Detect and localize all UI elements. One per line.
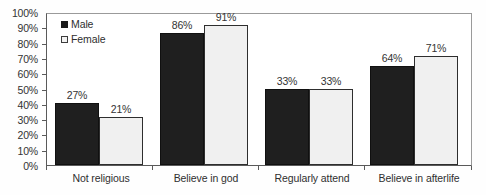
bar-male[interactable]: [160, 33, 204, 165]
y-tick-label: 100%: [12, 8, 38, 19]
bar-male[interactable]: [55, 103, 99, 165]
x-axis: Not religious Believe in god Regularly a…: [0, 172, 486, 192]
bar-male[interactable]: [265, 89, 309, 165]
y-tick-label: 70%: [18, 54, 38, 65]
bar-group: 33% 33%: [265, 14, 360, 165]
y-tick-label: 0%: [23, 161, 38, 172]
legend: Male Female: [61, 18, 105, 48]
legend-item-female: Female: [61, 33, 105, 46]
legend-label-female: Female: [71, 34, 105, 45]
bar-value-label: 71%: [426, 43, 446, 54]
bar-value-label: 33%: [321, 76, 341, 87]
y-tick-label: 20%: [18, 130, 38, 141]
bar-value-label: 86%: [172, 20, 192, 31]
bar-value-label: 27%: [67, 90, 87, 101]
x-axis-tick: [46, 166, 47, 170]
bar-chart: 100% 90% 80% 70% 60% 50% 40% 30% 20% 10%…: [0, 0, 486, 195]
y-tick-label: 60%: [18, 69, 38, 80]
x-category-label: Not religious: [72, 172, 129, 184]
x-axis-tick: [152, 166, 153, 170]
bar-value-label: 21%: [111, 104, 131, 115]
legend-label-male: Male: [71, 19, 93, 30]
bar-group: 86% 91%: [160, 14, 255, 165]
x-category-label: Regularly attend: [275, 172, 350, 184]
bar-female[interactable]: [309, 89, 353, 165]
legend-item-male: Male: [61, 18, 105, 31]
legend-swatch-female-icon: [61, 36, 68, 43]
bar-value-label: 91%: [216, 12, 236, 23]
x-axis-tick: [364, 166, 365, 170]
y-tick-label: 30%: [18, 115, 38, 126]
bar-value-label: 33%: [277, 76, 297, 87]
x-axis-tick: [471, 166, 472, 170]
y-tick-label: 50%: [18, 84, 38, 95]
bar-female[interactable]: [99, 117, 143, 165]
bar-female[interactable]: [414, 56, 458, 165]
x-category-label: Believe in god: [174, 172, 239, 184]
bar-group: 64% 71%: [370, 14, 465, 165]
y-tick-label: 90%: [18, 23, 38, 34]
x-axis-tick: [258, 166, 259, 170]
y-tick-label: 80%: [18, 38, 38, 49]
legend-swatch-male-icon: [61, 21, 68, 28]
x-category-label: Believe in afterlife: [379, 172, 460, 184]
bar-male[interactable]: [370, 66, 414, 165]
y-tick-label: 40%: [18, 100, 38, 111]
y-axis: 100% 90% 80% 70% 60% 50% 40% 30% 20% 10%…: [0, 0, 42, 195]
plot-area: Male Female 27% 21% 86% 91%: [46, 13, 472, 166]
bars-layer: 27% 21% 86% 91% 33% 33% 64%: [47, 14, 471, 165]
y-tick-label: 10%: [18, 145, 38, 156]
bar-value-label: 64%: [382, 53, 402, 64]
bar-female[interactable]: [204, 25, 248, 165]
